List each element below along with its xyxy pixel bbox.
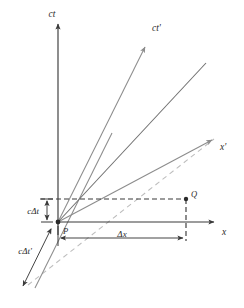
delta-x-label: Δx — [116, 229, 126, 239]
x-axis-label: x — [221, 227, 227, 237]
x-prime-axis-label: x' — [219, 142, 227, 152]
spacetime-diagram-figure: ct ct' x x' P Q Δx cΔt cΔt' — [0, 0, 244, 308]
c-delta-t-label: cΔt — [27, 206, 39, 216]
c-delta-t-prime-label: cΔt' — [18, 246, 33, 256]
x-prime-axis-line — [58, 140, 212, 222]
figure-caption — [0, 294, 244, 308]
point-p-marker — [56, 220, 61, 225]
mid-worldline-line — [58, 63, 206, 222]
ct-prime-axis-label: ct' — [152, 23, 162, 33]
ct-axis-label: ct — [49, 9, 56, 19]
point-q-label: Q — [191, 189, 197, 199]
point-p-label: P — [62, 226, 68, 236]
point-q-marker — [184, 197, 188, 201]
minkowski-diagram-canvas: ct ct' x x' P Q Δx cΔt cΔt' — [0, 0, 244, 308]
ct-prime-axis-line — [58, 47, 145, 222]
